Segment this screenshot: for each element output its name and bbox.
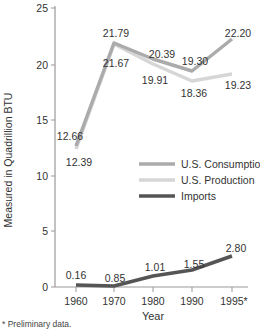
x-tick-label: 1995*: [220, 295, 247, 307]
y-axis-title: Measured in Quadrillion BTU: [2, 93, 14, 228]
legend-label-production: U.S. Production: [181, 174, 255, 186]
production-value-labels: 12.39 21.67 19.91 18.36 19.23: [66, 57, 251, 168]
svg-text:2.80: 2.80: [226, 242, 247, 254]
imports-value-labels: 0.16 0.85 1.01 1.55 2.80: [66, 242, 247, 284]
x-ticks: 1960 1970 1980 1990 1995*: [64, 287, 247, 307]
legend-label-consumption: U.S. Consumption: [181, 158, 260, 170]
svg-text:19.23: 19.23: [225, 79, 251, 91]
footnote: * Preliminary data.: [2, 319, 71, 329]
svg-text:12.39: 12.39: [66, 156, 92, 168]
svg-text:0.16: 0.16: [66, 269, 87, 281]
svg-text:19.30: 19.30: [182, 55, 208, 67]
y-tick-label: 10: [36, 170, 48, 182]
y-tick-label: 20: [36, 59, 48, 71]
legend: U.S. Consumption U.S. Production Imports: [139, 158, 260, 202]
svg-text:22.20: 22.20: [225, 27, 251, 39]
x-tick-label: 1990: [180, 295, 204, 307]
y-tick-label: 0: [42, 281, 48, 293]
y-ticks: 0 5 10 15 20 25: [36, 2, 55, 293]
x-tick-label: 1970: [102, 295, 126, 307]
svg-text:0.85: 0.85: [105, 272, 126, 284]
svg-text:18.36: 18.36: [181, 87, 207, 99]
y-tick-label: 5: [42, 225, 48, 237]
y-tick-label: 15: [36, 114, 48, 126]
svg-text:1.01: 1.01: [145, 261, 166, 273]
x-tick-label: 1960: [64, 295, 88, 307]
svg-text:19.91: 19.91: [142, 74, 168, 86]
svg-text:12.66: 12.66: [57, 130, 83, 142]
svg-text:21.67: 21.67: [103, 57, 129, 69]
legend-label-imports: Imports: [181, 190, 216, 202]
x-tick-label: 1980: [141, 295, 165, 307]
svg-text:1.55: 1.55: [184, 258, 205, 270]
y-tick-label: 25: [36, 2, 48, 14]
svg-text:21.79: 21.79: [103, 27, 129, 39]
line-chart: 0 5 10 15 20 25 1960 1970 1980 1990 1995…: [0, 0, 260, 332]
svg-text:20.39: 20.39: [149, 48, 175, 60]
x-axis-title: Year: [142, 310, 165, 322]
